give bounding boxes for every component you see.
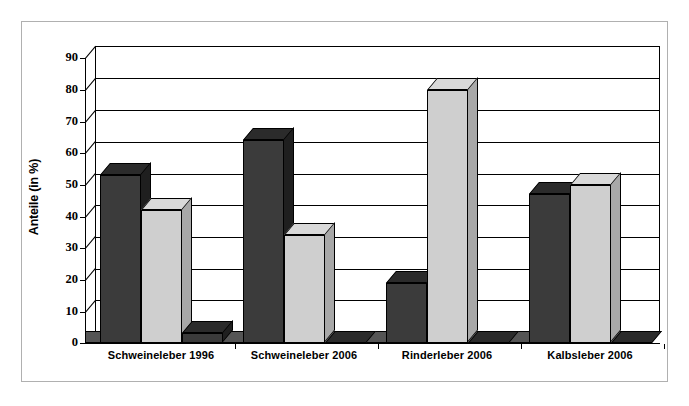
ytick-label-10: 10 — [52, 304, 78, 319]
plot-right-edge — [659, 46, 660, 332]
bar-g1-s1 — [284, 223, 336, 343]
category-label-schweineleber-2006: Schweineleber 2006 — [229, 349, 379, 361]
ytick-mark-30 — [80, 248, 85, 249]
bar-g3-s1 — [570, 173, 622, 343]
bar-front-face — [243, 140, 284, 343]
gridline-70 — [95, 110, 660, 111]
ytick-label-20: 20 — [52, 272, 78, 287]
bar-top-face — [468, 331, 519, 343]
y-axis-title: Anteile (in %) — [27, 137, 41, 257]
ytick-mark-40 — [80, 217, 85, 218]
plot-floor-edge — [85, 343, 660, 344]
ytick-mark-70 — [80, 122, 85, 123]
ytick-mark-90 — [80, 58, 85, 59]
y-axis-line — [85, 58, 86, 344]
gridline-80 — [95, 78, 660, 79]
bar-top-face — [325, 331, 376, 343]
bar-side-face — [610, 172, 621, 343]
ytick-mark-0 — [80, 343, 85, 344]
bar-g2-s2 — [468, 331, 520, 343]
gridline-60 — [95, 142, 660, 143]
gridline-90 — [95, 46, 660, 47]
ytick-label-30: 30 — [52, 240, 78, 255]
ytick-mark-20 — [80, 280, 85, 281]
bar-front-face — [141, 210, 182, 343]
bar-front-face — [427, 90, 468, 343]
plot-area: 90 80 70 60 50 40 30 20 10 0 Anteile (in… — [0, 0, 689, 406]
ytick-mark-50 — [80, 185, 85, 186]
category-label-kalbsleber-2006: Kalbsleber 2006 — [515, 349, 665, 361]
bar-g1-s2 — [325, 331, 377, 343]
plot-back-left-edge — [95, 46, 96, 332]
bar-front-face — [182, 333, 223, 343]
bar-front-face — [529, 194, 570, 343]
bar-front-face — [100, 175, 141, 343]
ytick-label-50: 50 — [52, 177, 78, 192]
ytick-mark-10 — [80, 312, 85, 313]
ytick-label-70: 70 — [52, 114, 78, 129]
ytick-mark-60 — [80, 153, 85, 154]
chart-figure: 90 80 70 60 50 40 30 20 10 0 Anteile (in… — [0, 0, 689, 406]
category-label-schweineleber-1996: Schweineleber 1996 — [86, 349, 236, 361]
bar-g3-s2 — [611, 331, 663, 343]
bar-front-face — [570, 185, 611, 343]
ytick-mark-80 — [80, 90, 85, 91]
ytick-label-60: 60 — [52, 145, 78, 160]
ytick-label-90: 90 — [52, 50, 78, 65]
category-label-rinderleber-2006: Rinderleber 2006 — [372, 349, 522, 361]
ytick-label-40: 40 — [52, 209, 78, 224]
ytick-label-0: 0 — [52, 335, 78, 350]
ytick-label-80: 80 — [52, 82, 78, 97]
bar-front-face — [386, 283, 427, 343]
bar-g2-s1 — [427, 78, 479, 343]
bar-front-face — [284, 235, 325, 343]
bar-g0-s2 — [182, 321, 234, 343]
bar-top-face — [611, 331, 662, 343]
bar-side-face — [324, 222, 335, 343]
bar-side-face — [467, 77, 478, 343]
